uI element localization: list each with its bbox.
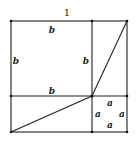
label-b-left: b xyxy=(13,56,19,66)
label-b-top: b xyxy=(49,25,55,35)
label-a-left: a xyxy=(95,109,101,119)
label-a-bottom: a xyxy=(107,120,113,130)
vertex-dot xyxy=(10,95,13,98)
side-length-label: 1 xyxy=(64,7,70,18)
vertex-dot xyxy=(126,131,129,134)
vertex-dot xyxy=(126,95,129,98)
vertex-dot xyxy=(10,20,13,23)
outer-square xyxy=(11,21,127,132)
vertex-dot xyxy=(91,20,94,23)
diagonal-lower xyxy=(11,96,92,132)
label-a-top: a xyxy=(107,98,113,108)
label-a-right: a xyxy=(119,109,125,119)
vertex-dot xyxy=(10,131,13,134)
vertex-dot xyxy=(90,94,93,97)
vertex-dot xyxy=(126,20,129,23)
diagonal-upper xyxy=(92,21,127,96)
label-b-middle: b xyxy=(49,86,55,96)
label-b-inner: b xyxy=(83,56,89,66)
vertex-dot xyxy=(91,131,94,134)
pythagoras-diagram: 1 b b b b a a a a xyxy=(0,0,136,150)
